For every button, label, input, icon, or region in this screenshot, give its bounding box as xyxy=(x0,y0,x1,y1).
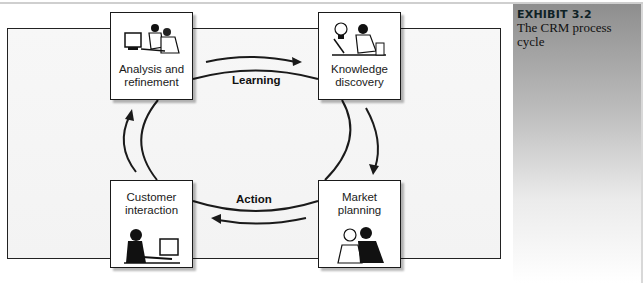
node-label-line2: planning xyxy=(319,204,400,217)
arrow-action xyxy=(218,218,306,224)
ring-right xyxy=(325,100,350,180)
node-label-line2: discovery xyxy=(319,76,400,89)
node-label-line1: Knowledge xyxy=(319,63,400,76)
arrow-left-up xyxy=(124,115,136,172)
node-market-planning: Market planning xyxy=(318,180,401,268)
arrowhead-learning xyxy=(292,57,302,66)
person-at-computer-icon xyxy=(122,227,182,265)
arrowhead-action xyxy=(211,214,221,224)
arrowhead-left-up xyxy=(125,109,134,121)
ring-left xyxy=(141,100,158,180)
arrowhead-right-down xyxy=(369,164,379,175)
exhibit-panel: EXHIBIT 3.2 The CRM process cycle xyxy=(513,4,643,283)
node-customer-interaction: Customer interaction xyxy=(110,180,193,268)
node-label-line1: Analysis and xyxy=(111,63,192,76)
node-label-line2: interaction xyxy=(111,204,192,217)
exhibit-caption: The CRM process cycle xyxy=(517,21,639,49)
node-analysis-refinement: Analysis and refinement xyxy=(110,12,193,100)
people-at-computer-icon xyxy=(121,23,183,57)
label-learning: Learning xyxy=(232,74,281,86)
two-people-planning-icon xyxy=(330,227,390,265)
label-action: Action xyxy=(236,193,272,205)
lightbulb-person-icon xyxy=(330,21,390,59)
node-label-line1: Customer xyxy=(111,191,192,204)
arrow-learning xyxy=(206,57,296,62)
node-knowledge-discovery: Knowledge discovery xyxy=(318,12,401,100)
node-label-line2: refinement xyxy=(111,76,192,89)
arrow-right-down xyxy=(366,108,378,168)
node-label-line1: Market xyxy=(319,191,400,204)
